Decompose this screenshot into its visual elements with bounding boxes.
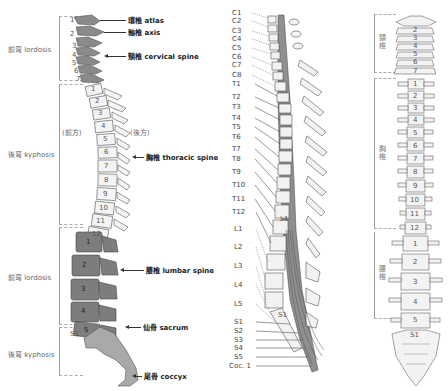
cervical-number: 5 [413, 50, 417, 58]
lumbar-number: 3 [413, 278, 417, 286]
lumbar-number: 1 [413, 240, 417, 248]
thoracic-number: 1 [413, 80, 417, 88]
thoracic-number: 8 [413, 168, 417, 176]
thoracic-number: 12 [410, 224, 419, 232]
lumbar-number: 4 [413, 298, 417, 306]
sacral-label: S1 [410, 331, 419, 339]
thoracic-number: 10 [410, 196, 419, 204]
cervical-number: 3 [413, 34, 417, 42]
lumbar-number: 5 [413, 316, 417, 324]
lumbar-number: 2 [413, 258, 417, 266]
thoracic-number: 3 [413, 104, 417, 112]
thoracic-number: 4 [413, 116, 417, 124]
cervical-number: 7 [413, 67, 417, 75]
cervical-number: 6 [413, 58, 417, 66]
thoracic-number: 7 [413, 155, 417, 163]
thoracic-number: 2 [413, 92, 417, 100]
cervical-number: 2 [413, 26, 417, 34]
cervical-number: 4 [413, 42, 417, 50]
anterior-spine-illustration [0, 0, 448, 391]
thoracic-number: 9 [413, 182, 417, 190]
thoracic-number: 5 [413, 129, 417, 137]
thoracic-number: 11 [410, 210, 419, 218]
thoracic-number: 6 [413, 142, 417, 150]
